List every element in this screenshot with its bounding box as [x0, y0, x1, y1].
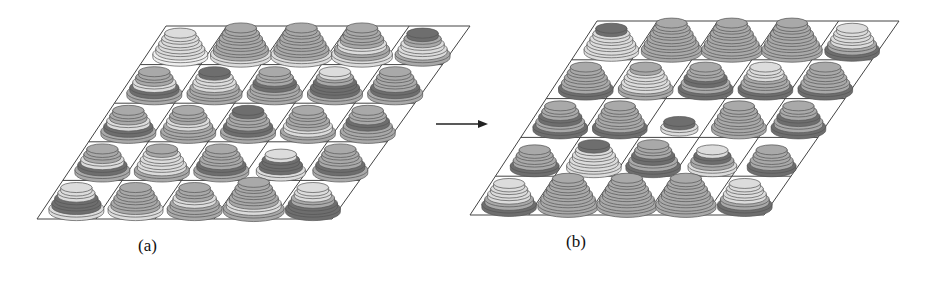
- disc: [729, 178, 760, 188]
- disc: [670, 173, 701, 183]
- disc: [172, 105, 203, 115]
- disc: [578, 140, 609, 150]
- disc: [120, 183, 151, 193]
- disc: [87, 144, 118, 154]
- disc: [286, 23, 317, 33]
- disc-stack: [510, 145, 559, 177]
- disc: [596, 23, 627, 33]
- disc: [352, 105, 383, 115]
- disc: [297, 183, 328, 193]
- disc: [545, 101, 576, 111]
- disc-stack: [538, 173, 598, 217]
- panel-b-label: (b): [566, 232, 586, 252]
- disc: [570, 62, 601, 72]
- panel-a-label: (a): [138, 236, 157, 256]
- disc: [179, 183, 210, 193]
- disc-stack: [223, 177, 284, 221]
- disc-stack: [271, 23, 332, 67]
- disc: [630, 62, 661, 72]
- disc: [638, 140, 669, 150]
- disc-stack: [641, 18, 701, 62]
- disc: [611, 173, 642, 183]
- disc: [656, 18, 687, 28]
- disc: [165, 28, 196, 38]
- disc-stack: [167, 183, 222, 221]
- disc: [113, 105, 144, 115]
- disc-stack: [762, 18, 822, 62]
- disc-stack: [340, 105, 395, 143]
- disc-stack: [597, 173, 657, 217]
- disc: [292, 105, 323, 115]
- disc: [146, 144, 177, 154]
- disc-stack: [718, 178, 773, 216]
- disc: [259, 67, 290, 77]
- disc: [716, 18, 747, 28]
- disc: [206, 144, 237, 154]
- disc: [837, 23, 868, 33]
- disc: [379, 67, 410, 77]
- disc: [723, 101, 754, 111]
- disc: [810, 62, 841, 72]
- disc: [199, 67, 230, 77]
- disc: [61, 183, 92, 193]
- disc: [664, 116, 695, 126]
- disc: [756, 145, 787, 155]
- disc-stack: [210, 23, 271, 67]
- disc-stack: [332, 23, 393, 67]
- panel-b-board: [470, 18, 899, 217]
- disc-stack: [256, 149, 305, 181]
- disc: [783, 101, 814, 111]
- panel-a-board: [37, 23, 470, 222]
- disc-stack: [747, 145, 796, 177]
- disc: [519, 145, 550, 155]
- disc: [232, 105, 263, 115]
- disc: [238, 177, 269, 187]
- disc: [346, 23, 377, 33]
- disc-stack: [313, 144, 368, 182]
- disc: [494, 178, 525, 188]
- disc-stack: [661, 116, 698, 136]
- disc: [407, 28, 438, 38]
- disc: [225, 23, 256, 33]
- disc: [690, 62, 721, 72]
- disc-stack: [285, 183, 340, 221]
- disc-stack: [688, 145, 737, 177]
- disc-stack: [702, 18, 762, 62]
- disc: [325, 144, 356, 154]
- disc: [552, 173, 583, 183]
- disc-stack: [656, 173, 716, 217]
- disc: [697, 145, 728, 155]
- disc: [604, 101, 635, 111]
- disc: [265, 149, 296, 159]
- disc: [776, 18, 807, 28]
- arrow-head-icon: [478, 120, 488, 128]
- disc: [750, 62, 781, 72]
- disc: [139, 67, 170, 77]
- disc: [319, 67, 350, 77]
